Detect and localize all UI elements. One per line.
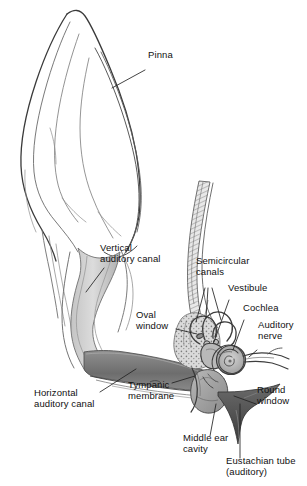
middle-ear-cavity-shape: [191, 370, 228, 414]
label-eustachian-tube: Eustachian tube (auditory): [226, 456, 296, 477]
label-vertical-auditory-canal: Vertical auditory canal: [100, 243, 161, 264]
label-cochlea: Cochlea: [243, 303, 279, 314]
label-pinna: Pinna: [148, 50, 173, 61]
label-tympanic-membrane: Tympanic membrane: [128, 380, 174, 401]
label-semicircular-canals: Semicircular canals: [196, 256, 249, 277]
leader-cochlea: [233, 320, 244, 350]
label-auditory-nerve: Auditory nerve: [258, 320, 294, 341]
leader-pinna: [112, 70, 145, 88]
label-round-window: Round window: [257, 385, 289, 406]
label-vestibule: Vestibule: [228, 283, 267, 294]
label-horizontal-auditory-canal: Horizontal auditory canal: [34, 388, 95, 409]
label-oval-window: Oval window: [136, 310, 168, 331]
leader-semicircular-canals-c: [212, 288, 221, 320]
leader-vestibule: [214, 300, 229, 342]
auditory-nerve-shape: [243, 348, 289, 369]
ear-anatomy-figure: Pinna Vertical auditory canal Semicircul…: [0, 0, 307, 486]
label-middle-ear-cavity: Middle ear cavity: [183, 433, 228, 454]
